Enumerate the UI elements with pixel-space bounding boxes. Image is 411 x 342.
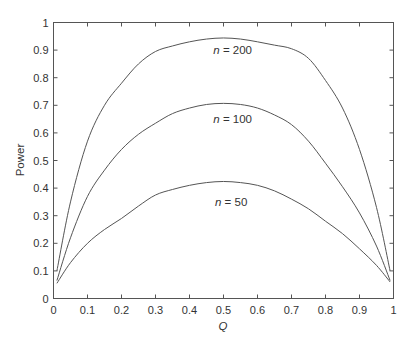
x-tick-label: 0.2 — [114, 304, 129, 316]
axes-frame — [54, 23, 394, 299]
y-tick-label: 0.5 — [33, 155, 48, 167]
y-axis-label: Power — [14, 144, 26, 177]
plot-area: 00.10.20.30.40.50.60.70.80.91 00.10.20.3… — [33, 17, 396, 316]
y-tick-label: 0.8 — [33, 72, 48, 84]
x-tick-label: 0.8 — [318, 304, 333, 316]
series-curve-n200 — [57, 38, 390, 271]
y-axis-ticks: 00.10.20.30.40.50.60.70.80.91 — [33, 17, 393, 305]
y-tick-label: 0.6 — [33, 127, 48, 139]
x-axis-label: Q — [219, 320, 228, 332]
x-tick-label: 0.7 — [284, 304, 299, 316]
y-tick-label: 0.2 — [33, 237, 48, 249]
x-tick-label: 0.5 — [216, 304, 231, 316]
y-tick-label: 0.9 — [33, 44, 48, 56]
y-tick-label: 1 — [42, 17, 48, 29]
series-curve-n100 — [57, 103, 390, 280]
x-tick-label: 0.1 — [80, 304, 95, 316]
series-curves — [57, 38, 390, 283]
series-label-value: = 50 — [221, 196, 247, 208]
x-tick-label: 0 — [50, 304, 56, 316]
x-tick-label: 0.6 — [250, 304, 265, 316]
series-label: n = 200 — [213, 44, 252, 56]
y-tick-label: 0 — [42, 293, 48, 305]
y-tick-label: 0.1 — [33, 265, 48, 277]
series-label-value: = 200 — [220, 44, 252, 56]
x-axis-ticks: 00.10.20.30.40.50.60.70.80.91 — [50, 23, 396, 316]
y-tick-label: 0.3 — [33, 210, 48, 222]
series-label: n = 100 — [213, 113, 252, 125]
power-chart: 00.10.20.30.40.50.60.70.80.91 00.10.20.3… — [0, 0, 411, 342]
x-tick-label: 0.3 — [148, 304, 163, 316]
y-tick-label: 0.4 — [33, 182, 48, 194]
x-tick-label: 1 — [390, 304, 396, 316]
series-label-value: = 100 — [220, 113, 252, 125]
series-label: n = 50 — [215, 196, 247, 208]
x-tick-label: 0.9 — [352, 304, 367, 316]
y-tick-label: 0.7 — [33, 99, 48, 111]
x-tick-label: 0.4 — [182, 304, 197, 316]
